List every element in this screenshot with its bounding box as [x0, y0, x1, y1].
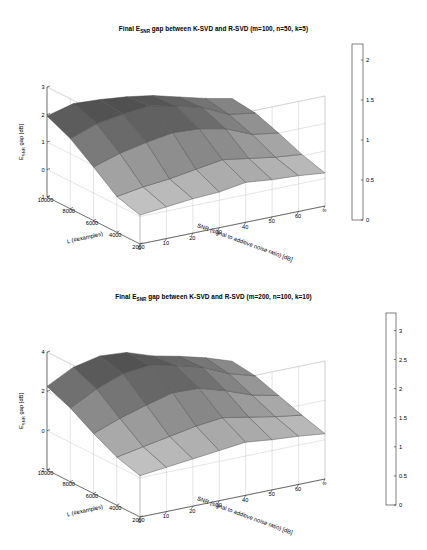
chart-top-canvas: -10123ESNR gap [dB]100008000600040002000… [0, 0, 427, 275]
colorbar-tick-label: 0.5 [366, 177, 374, 183]
figure-page: Final ESNR gap between K-SVD and R-SVD (… [0, 0, 427, 550]
x-tick-label: 40 [242, 224, 248, 230]
y-tick-label: 6000 [86, 220, 98, 226]
x-tick-label: 50 [269, 218, 275, 224]
x-tick-label: 0 [138, 518, 141, 524]
colorbar-tick-label: 3 [399, 328, 402, 334]
y-tick-label: 8000 [63, 481, 75, 487]
z-tick-label: 1 [41, 139, 44, 145]
x-tick-label: 20 [189, 235, 195, 241]
colorbar-tick-label: 2 [366, 57, 369, 63]
z-axis-label: ESNR gap [dB] [18, 124, 26, 161]
x-tick-label: 60 [295, 213, 301, 219]
y-axis-label: L (#examples) [66, 503, 103, 517]
x-tick-label: 0 [138, 245, 141, 251]
colorbar-tick-label: 0 [366, 217, 369, 223]
colorbar-tick-label: 2 [399, 386, 402, 392]
colorbar-tick-label: 0.5 [399, 473, 407, 479]
z-tick-label: 0 [41, 428, 44, 434]
y-tick-label: 8000 [63, 208, 75, 214]
y-tick-label: 4000 [109, 232, 121, 238]
chart-bottom-canvas: -2024ESNR gap [dB]100008000600040002000L… [0, 275, 427, 550]
colorbar-tick-label: 2.5 [399, 357, 407, 363]
x-tick-label: 10 [163, 240, 169, 246]
z-tick-label: 0 [41, 167, 44, 173]
z-axis-label: ESNR gap [dB] [18, 393, 26, 430]
colorbar-tick-label: 0 [399, 502, 402, 508]
x-tick-label: ∞ [323, 207, 327, 213]
z-tick-label: 4 [41, 349, 44, 355]
x-tick-label: 20 [189, 508, 195, 514]
z-tick-label: 2 [41, 388, 44, 394]
chart-top-figure: Final ESNR gap between K-SVD and R-SVD (… [0, 0, 427, 275]
colorbar [386, 313, 396, 505]
colorbar-tick-label: 1 [366, 137, 369, 143]
y-tick-label: 6000 [86, 493, 98, 499]
colorbar-tick-label: 1.5 [399, 415, 407, 421]
y-tick-label: 10000 [38, 197, 54, 203]
colorbar-tick-label: 1.5 [366, 97, 374, 103]
x-tick-label: 40 [242, 497, 248, 503]
x-tick-label: 50 [269, 491, 275, 497]
y-axis-label: L (#examples) [66, 230, 103, 244]
y-tick-label: 4000 [109, 505, 121, 511]
x-tick-label: 10 [163, 513, 169, 519]
z-tick-label: 3 [41, 84, 44, 90]
colorbar [352, 44, 363, 220]
y-tick-label: 10000 [38, 470, 54, 476]
colorbar-tick-label: 1 [399, 444, 402, 450]
chart-bottom-figure: Final ESNR gap between K-SVD and R-SVD (… [0, 275, 427, 550]
z-tick-label: 2 [41, 112, 44, 118]
x-tick-label: ∞ [323, 480, 327, 486]
x-tick-label: 60 [295, 486, 301, 492]
